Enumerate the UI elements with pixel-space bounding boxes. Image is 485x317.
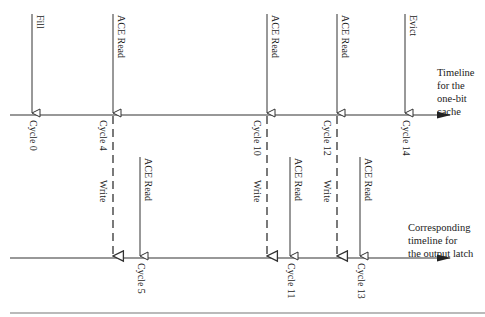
cache-label-line: Timeline [437,66,475,79]
latch-label-line: the output latch [408,247,473,260]
cycle-12-label: Cycle 12 [322,120,332,156]
timeline-diagram [0,0,485,317]
cycle-10-label: Cycle 10 [252,120,262,156]
cache-label-line: one-bit [437,92,475,105]
latch-read-13-label: ACE Read [363,158,373,201]
latch-timeline-label: Corresponding timeline for the output la… [408,221,473,260]
write-label-10: Write [252,180,262,202]
write-label-4: Write [98,180,108,202]
cache-timeline-label: Timeline for the one-bit cache [437,66,475,118]
cycle-4-label: Cycle 4 [98,120,108,151]
latch-label-line: Corresponding [408,221,473,234]
fill-label: Fill [35,15,45,29]
latch-read-5-label: ACE Read [143,158,153,201]
cycle-14-label: Cycle 14 [401,120,411,156]
cycle-5-label: Cycle 5 [136,263,146,294]
evict-label: Evict [408,15,418,36]
latch-label-line: timeline for [408,234,473,247]
ace-read-10-label: ACE Read [270,15,280,58]
cycle-11-label: Cycle 11 [286,263,296,298]
cache-label-line: cache [437,105,475,118]
write-label-12: Write [322,180,332,202]
cache-label-line: for the [437,79,475,92]
cycle-13-label: Cycle 13 [356,263,366,299]
ace-read-4-label: ACE Read [116,15,126,58]
latch-read-11-label: ACE Read [293,158,303,201]
ace-read-12-label: ACE Read [340,15,350,58]
cycle-0-label: Cycle 0 [28,120,38,151]
